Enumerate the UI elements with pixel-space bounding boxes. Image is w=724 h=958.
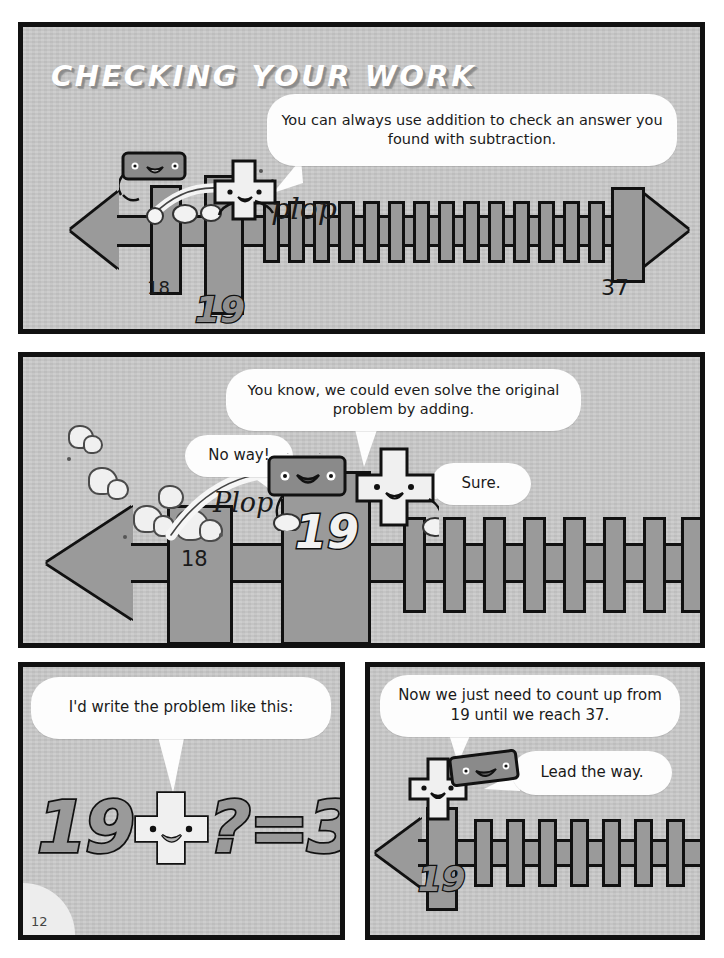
numberline-tick [488, 201, 505, 263]
numberline-tick [588, 201, 605, 263]
sfx-plop-p2: Plop [213, 487, 273, 518]
numberline-tick [563, 201, 580, 263]
plus-sign-character [353, 445, 439, 537]
numberline-tick [538, 819, 557, 887]
numberline-tick [506, 819, 525, 887]
numberline-tick [413, 201, 430, 263]
dust-puff [107, 479, 129, 500]
plus-sign-character-icon [131, 787, 211, 867]
minus-sign-character [448, 749, 524, 789]
page-title: CHECKING YOUR WORK [51, 59, 476, 93]
numberline-tick [666, 819, 685, 887]
numberline-tick [563, 517, 586, 613]
numberline-tick [388, 201, 405, 263]
comic-panel-1: CHECKING YOUR WORK You can always use ad… [18, 22, 705, 334]
equation-right-operand: 37 [307, 785, 345, 869]
numberline-tick [570, 819, 589, 887]
numberline-left-arrow [47, 507, 133, 619]
numberline-left-arrow [376, 819, 422, 887]
speech-balloon-lead: Lead the way. [512, 751, 672, 795]
numberline-label-19: 19 [195, 289, 245, 330]
equation-left-operand: 19 [37, 785, 133, 869]
numberline-right-arrow [640, 192, 688, 268]
numberline-tick [338, 201, 355, 263]
numberline-tick-37 [611, 187, 645, 283]
equation-display: 19 ? = 37 [37, 785, 345, 869]
page-number: 12 [23, 883, 75, 935]
numberline-tick [634, 819, 653, 887]
numberline-tick [523, 517, 546, 613]
numberline-tick [483, 517, 506, 613]
comic-panel-3: I'd write the problem like this: 19 ? = … [18, 662, 345, 940]
speech-balloon-narration-p4: Now we just need to count up from 19 unt… [380, 675, 680, 737]
numberline-tick [463, 201, 480, 263]
speck [67, 457, 71, 461]
speech-balloon-narration-p2: You know, we could even solve the origin… [226, 369, 581, 431]
numberline-tick [538, 201, 555, 263]
numberline-tick [643, 517, 666, 613]
numberline-label-19: 19 [418, 859, 465, 899]
numberline-tick [603, 517, 626, 613]
numberline-tick [681, 517, 704, 613]
comic-panel-2: You know, we could even solve the origin… [18, 352, 705, 648]
numberline-tick [474, 819, 493, 887]
speech-balloon-p3: I'd write the problem like this: [31, 677, 331, 739]
minus-sign-character [265, 453, 355, 531]
numberline-left-arrow [71, 192, 119, 268]
numberline-tick [443, 517, 466, 613]
numberline-tick [363, 201, 380, 263]
comic-panel-4: Now we just need to count up from 19 unt… [365, 662, 705, 940]
speech-balloon-sure: Sure. [431, 463, 531, 505]
sfx-plop-p1: plop [271, 191, 337, 226]
dust-puff [83, 435, 103, 454]
equation-equals: = [249, 785, 307, 869]
numberline-label-37: 37 [601, 275, 629, 300]
equation-unknown: ? [209, 785, 249, 869]
numberline-tick [513, 201, 530, 263]
speech-balloon-narration-p1: You can always use addition to check an … [267, 94, 677, 166]
minus-sign-character [119, 149, 193, 209]
speck [123, 535, 127, 539]
comic-page: CHECKING YOUR WORK You can always use ad… [0, 0, 724, 958]
numberline-label-18: 18 [147, 277, 170, 298]
numberline-label-18: 18 [181, 547, 208, 571]
numberline-tick [602, 819, 621, 887]
numberline-tick [438, 201, 455, 263]
